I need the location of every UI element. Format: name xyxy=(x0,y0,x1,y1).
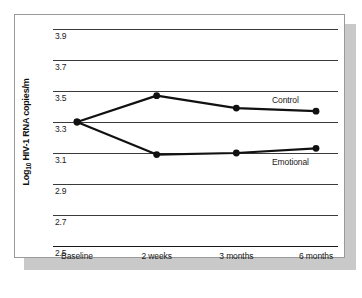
x-axis-tick-label: 6 months xyxy=(299,251,333,261)
y-axis-title: Log10 HIV-1 RNA copies/m xyxy=(21,57,31,207)
gridline xyxy=(53,246,338,247)
x-axis-tick-label: 3 months xyxy=(219,251,253,261)
data-point-marker xyxy=(153,92,160,99)
chart-card: Log10 HIV-1 RNA copies/m 3.93.73.53.33.1… xyxy=(14,14,345,258)
data-point-marker xyxy=(313,145,320,152)
series-line xyxy=(77,122,316,155)
series-label-control: Control xyxy=(272,95,299,105)
figure-page: Log10 HIV-1 RNA copies/m 3.93.73.53.33.1… xyxy=(0,0,362,298)
series-label-emotional: Emotional xyxy=(272,157,309,167)
series-layer xyxy=(53,29,338,246)
data-point-marker xyxy=(233,105,240,112)
data-point-marker xyxy=(74,119,81,126)
x-axis-tick-label: Baseline xyxy=(61,251,93,261)
x-axis-tick-label: 2 weeks xyxy=(141,251,171,261)
data-point-marker xyxy=(153,151,160,158)
y-axis-title-subscript: 10 xyxy=(25,163,32,170)
data-point-marker xyxy=(313,108,320,115)
data-point-marker xyxy=(233,150,240,157)
plot-area: 3.93.73.53.33.12.92.72.5Baseline2 weeks3… xyxy=(53,29,338,246)
y-axis-title-main: HIV-1 RNA copies/m xyxy=(21,78,31,160)
y-axis-title-prefix: Log xyxy=(21,170,31,186)
